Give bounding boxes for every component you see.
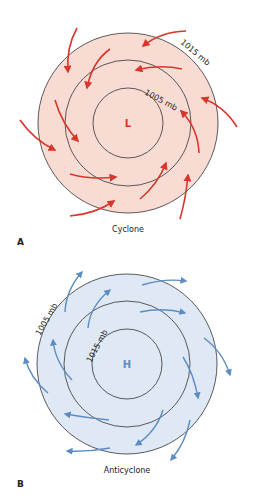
anticyclone-panel: H 1015 mb 1005 mb Anticyclone B xyxy=(17,272,230,489)
anticyclone-title: Anticyclone xyxy=(104,466,151,475)
panel-letter-b: B xyxy=(17,479,24,489)
cyclone-title: Cyclone xyxy=(112,225,144,234)
high-pressure-label: H xyxy=(123,359,131,370)
panel-letter-a: A xyxy=(17,237,24,247)
low-pressure-label: L xyxy=(125,118,132,129)
cyclone-panel: L 1005 mb 1015 mb Cyclone A xyxy=(17,28,237,247)
pressure-systems-diagram: L 1005 mb 1015 mb Cyclone A H 1015 mb 10… xyxy=(0,0,254,501)
